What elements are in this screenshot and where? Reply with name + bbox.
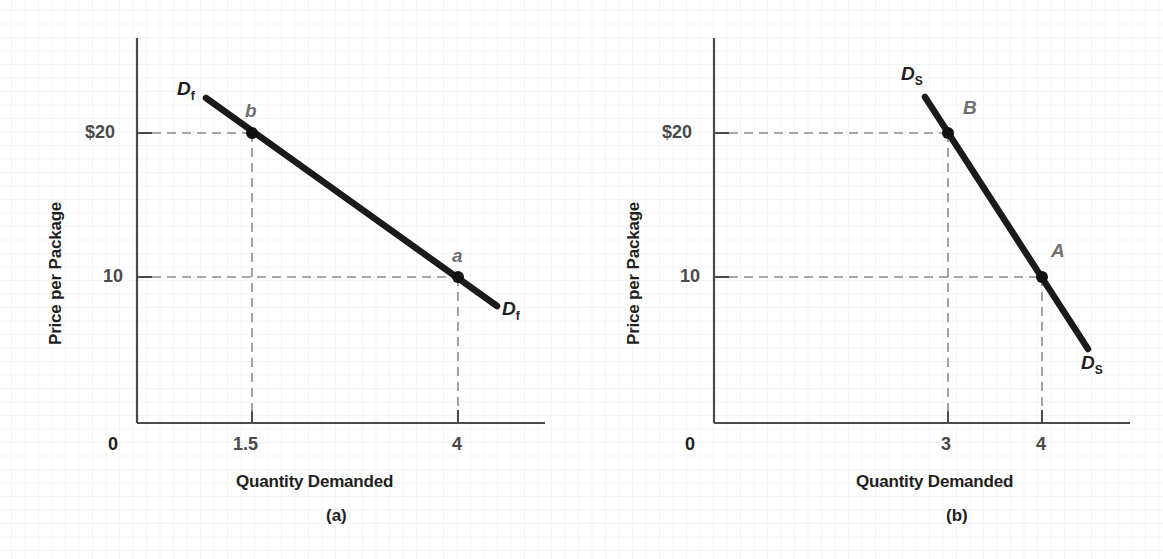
- panel-b-x-axis-title: Quantity Demanded: [856, 472, 1013, 492]
- panel-a-point-a-marker: [452, 271, 464, 283]
- panel-b-point-B-label: B: [963, 97, 977, 119]
- panel-a-curve-label-upper: Df: [177, 78, 195, 103]
- panel-a-x-tick-4: 4: [452, 434, 462, 455]
- panel-b-curve-label-lower-letter: D: [1081, 352, 1095, 373]
- panel-a-demand-curve: [206, 98, 497, 306]
- panel-a-y-tick-20: $20: [85, 122, 115, 143]
- panel-b-point-A-label: A: [1051, 240, 1065, 262]
- panel-b-curve-label-upper: DS: [901, 63, 923, 88]
- panel-b-curve-label-upper-letter: D: [901, 63, 915, 84]
- panel-a-point-b-label: b: [245, 100, 257, 122]
- panel-b-y-tick-10: 10: [680, 266, 700, 287]
- panel-a-point-a-label: a: [452, 245, 463, 267]
- panel-b-curve-label-lower-subscript: S: [1095, 363, 1103, 377]
- panel-a-x-axis-title: Quantity Demanded: [236, 472, 393, 492]
- panel-a-curve-label-lower-subscript: f: [516, 309, 520, 323]
- panel-a-origin-label: 0: [108, 434, 118, 455]
- panel-a-caption: (a): [326, 506, 347, 526]
- panel-b-x-tick-4: 4: [1036, 434, 1046, 455]
- panel-a-y-axis-title: Price per Package: [46, 202, 66, 345]
- panel-b-curve-label-upper-subscript: S: [915, 74, 923, 88]
- demand-curve-figure: Price per Package $20 10 0 1.5 4 b a Df …: [0, 0, 1163, 559]
- panel-b-point-A-marker: [1036, 271, 1048, 283]
- panel-b-y-axis-title: Price per Package: [624, 202, 644, 345]
- panel-a-guidelines: [152, 133, 458, 412]
- panel-b-caption: (b): [946, 506, 968, 526]
- panel-a-curve-label-lower: Df: [502, 298, 520, 323]
- panel-b-curve-label-lower: DS: [1081, 352, 1103, 377]
- panel-a-axes: [137, 38, 545, 423]
- panel-b-origin-label: 0: [685, 434, 695, 455]
- panel-b-demand-curve: [925, 97, 1088, 349]
- panel-a-curve-label-upper-letter: D: [177, 78, 191, 99]
- panel-b-y-tick-20: $20: [662, 122, 692, 143]
- panel-a-point-b-marker: [246, 127, 258, 139]
- panel-b-guidelines: [729, 133, 1042, 412]
- panel-b-x-tick-3: 3: [941, 434, 951, 455]
- panel-b-point-B-marker: [942, 127, 954, 139]
- panel-a-x-tick-1-5: 1.5: [233, 434, 258, 455]
- panel-a-y-tick-10: 10: [103, 266, 123, 287]
- panel-a-curve-label-upper-subscript: f: [191, 89, 195, 103]
- panel-a-curve-label-lower-letter: D: [502, 298, 516, 319]
